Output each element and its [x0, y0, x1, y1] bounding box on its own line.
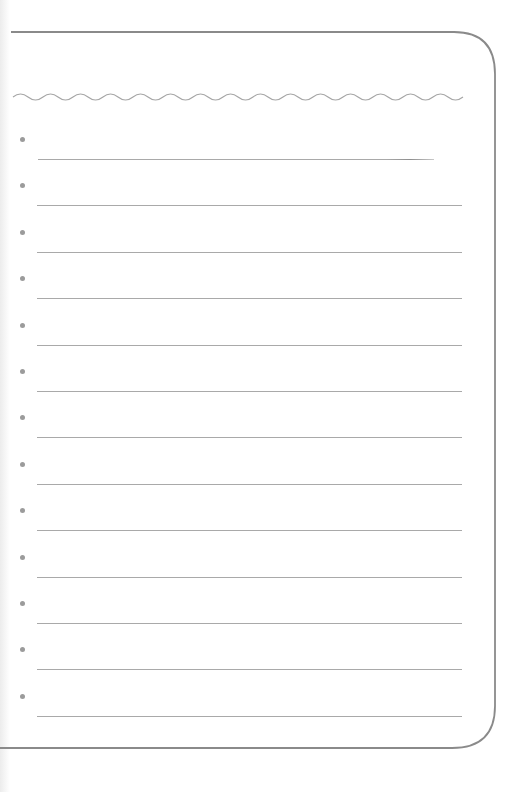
- list-item-writing-line[interactable]: [37, 623, 462, 624]
- list-item-writing-line[interactable]: [37, 669, 462, 670]
- list-item-writing-line[interactable]: [37, 205, 462, 206]
- bullet-dot-icon: [20, 555, 25, 560]
- bullet-dot-icon: [20, 183, 25, 188]
- list-item-writing-line[interactable]: [37, 437, 462, 438]
- bullet-dot-icon: [20, 508, 25, 513]
- bullet-dot-icon: [20, 415, 25, 420]
- bullet-dot-icon: [20, 230, 25, 235]
- list-item-writing-line[interactable]: [37, 530, 462, 531]
- list-item-writing-line[interactable]: [37, 345, 462, 346]
- wavy-divider: [0, 0, 521, 792]
- bullet-dot-icon: [20, 694, 25, 699]
- bullet-dot-icon: [20, 601, 25, 606]
- list-item-writing-line[interactable]: [37, 716, 462, 717]
- list-item-writing-line[interactable]: [37, 391, 462, 392]
- list-item-writing-line[interactable]: [37, 298, 462, 299]
- list-item-writing-line[interactable]: [38, 159, 434, 160]
- bullet-dot-icon: [20, 462, 25, 467]
- list-item-writing-line[interactable]: [37, 252, 462, 253]
- bullet-dot-icon: [20, 276, 25, 281]
- bullet-dot-icon: [20, 137, 25, 142]
- list-item-writing-line[interactable]: [37, 484, 462, 485]
- bullet-dot-icon: [20, 369, 25, 374]
- bullet-dot-icon: [20, 323, 25, 328]
- bullet-dot-icon: [20, 647, 25, 652]
- list-item-writing-line[interactable]: [37, 577, 462, 578]
